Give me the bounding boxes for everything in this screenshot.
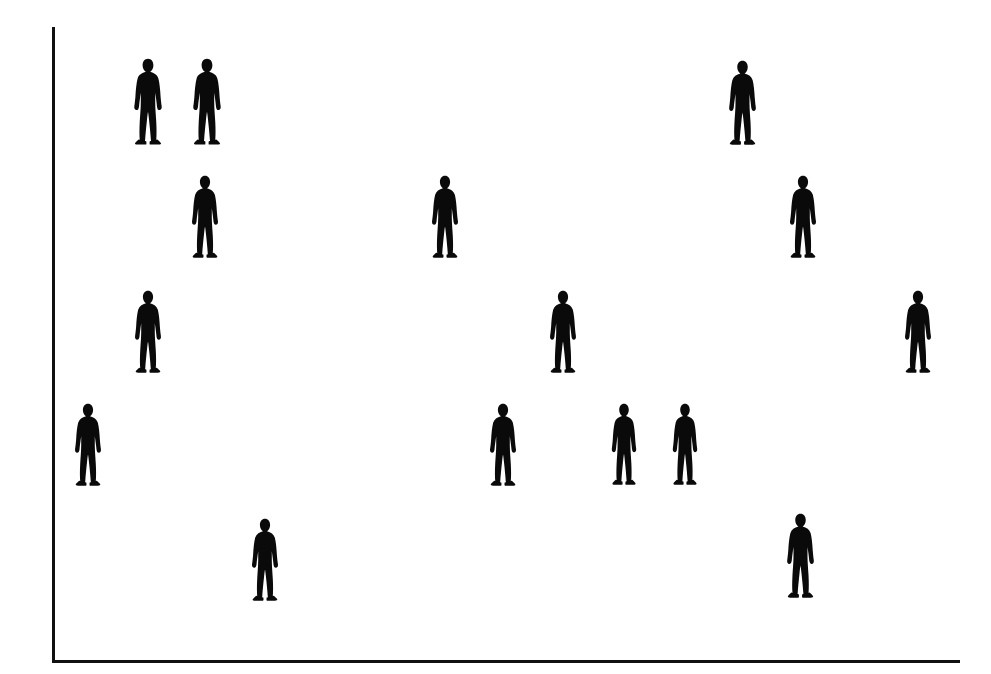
person-standing-icon [546,290,580,374]
person-standing-icon [725,60,760,146]
plot-area [0,0,991,674]
person-standing-icon [131,290,165,374]
person-standing-icon [130,58,166,146]
person-standing-icon [786,175,820,259]
person-standing-icon [189,58,225,146]
person-standing-icon [901,290,935,374]
chart-canvas [0,0,991,674]
person-standing-icon [71,403,105,487]
person-standing-icon [248,518,282,602]
person-standing-icon [608,403,640,486]
person-standing-icon [669,403,701,486]
person-standing-icon [783,513,818,599]
person-standing-icon [428,175,462,259]
person-standing-icon [486,403,520,487]
x-axis-line [52,660,960,663]
person-standing-icon [188,175,222,259]
y-axis-line [52,27,55,663]
